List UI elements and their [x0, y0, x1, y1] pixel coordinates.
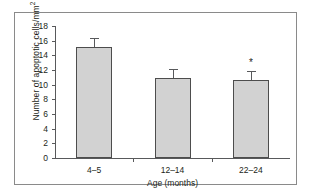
error-bar-cap [90, 38, 99, 39]
y-axis-label-exponent: 2 [29, 2, 36, 6]
significance-marker: * [241, 59, 261, 67]
y-tick-mark [52, 26, 55, 27]
y-tick-mark [52, 158, 55, 159]
error-bar-stem [251, 71, 252, 80]
bar [76, 47, 112, 158]
error-bar-stem [94, 38, 95, 47]
x-tick-label: 12–14 [143, 165, 203, 175]
y-tick-mark [52, 99, 55, 100]
error-bar-cap [169, 69, 178, 70]
y-tick-mark [52, 41, 55, 42]
y-tick-mark [52, 114, 55, 115]
y-tick-mark [52, 129, 55, 130]
y-axis-label-text: Number of apoptotic cells/mm [31, 5, 41, 120]
error-bar-cap [247, 71, 256, 72]
x-tick-mark [133, 159, 134, 162]
x-tick-label: 22–24 [221, 165, 281, 175]
x-tick-label: 4–5 [64, 165, 124, 175]
bar-chart-plot: 181614121086420Number of apoptotic cells… [0, 0, 312, 196]
y-tick-mark [52, 143, 55, 144]
y-tick-mark [52, 55, 55, 56]
y-tick-label: 0 [30, 154, 48, 162]
error-bar-stem [173, 69, 174, 78]
x-axis-line [55, 158, 290, 159]
x-axis-label: Age (months) [93, 178, 253, 188]
figure-panel: 181614121086420Number of apoptotic cells… [0, 0, 312, 196]
y-tick-mark [52, 85, 55, 86]
y-tick-mark [52, 70, 55, 71]
y-axis-line [55, 26, 56, 159]
bar [155, 78, 191, 158]
x-tick-mark [212, 159, 213, 162]
bar [233, 80, 269, 158]
y-axis-label: Number of apoptotic cells/mm2 [31, 0, 41, 141]
